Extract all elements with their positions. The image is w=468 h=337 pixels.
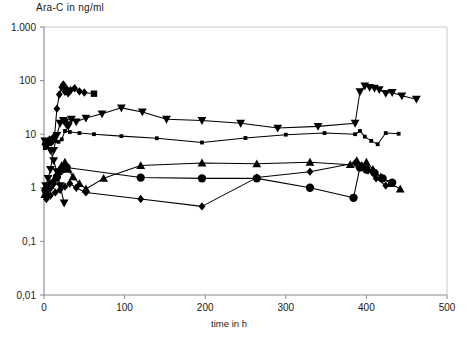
data-point-circle [137, 173, 145, 181]
data-point-square-small [244, 136, 248, 140]
data-point-circle [62, 163, 70, 171]
data-point-triangle-up [396, 185, 405, 193]
data-point-square-small [397, 132, 401, 136]
data-point-square-small [358, 129, 362, 133]
series-line [45, 161, 400, 195]
y-tick-label: 0,1 [22, 236, 36, 247]
data-point-diamond [307, 167, 314, 175]
data-point-square-small [155, 136, 159, 140]
data-point-circle [198, 174, 206, 182]
data-point-diamond [199, 202, 206, 210]
x-tick-label: 500 [439, 302, 456, 313]
data-point-square-small [92, 132, 96, 136]
data-point-circle [388, 178, 396, 186]
data-point-triangle-up [69, 172, 78, 180]
chart-figure: Ara-C in ng/ml 0,010,11101001.0000100200… [0, 0, 468, 337]
y-axis-ticks: 0,010,11101001.000 [11, 22, 44, 301]
data-point-triangle-down [381, 90, 390, 98]
data-point-square-small [384, 131, 388, 135]
x-axis-ticks: 0100200300400500 [41, 295, 456, 313]
y-tick-label: 1 [30, 182, 36, 193]
data-point-circle [370, 169, 378, 177]
data-point-triangle-down [60, 200, 69, 208]
data-point-square-small [323, 131, 327, 135]
data-point-diamond [137, 195, 144, 203]
data-point-square-small [63, 129, 67, 133]
series-patient-4-up-triangle [40, 156, 404, 198]
data-point-triangle-up [306, 158, 315, 166]
data-point-triangle-down [412, 96, 421, 104]
data-point-triangle-down [49, 157, 58, 165]
x-axis-title: time in h [0, 318, 468, 329]
data-point-square-small [68, 130, 72, 134]
series-line [46, 167, 393, 197]
data-point-diamond [81, 88, 88, 96]
data-point-circle [306, 184, 314, 192]
y-tick-label: 10 [25, 129, 37, 140]
series-line [45, 131, 399, 148]
data-point-circle [349, 194, 357, 202]
data-point-circle [48, 179, 56, 187]
plot-area: 0,010,11101001.0000100200300400500 [0, 0, 468, 337]
x-tick-label: 100 [116, 302, 133, 313]
data-point-triangle-up [99, 174, 108, 182]
x-tick-label: 300 [277, 302, 294, 313]
series-patient-6-diamond-low [43, 159, 389, 211]
series-patient-5-circle [41, 163, 396, 202]
data-point-triangle-down [356, 88, 365, 96]
series-patient-3-small-square [43, 129, 401, 150]
data-point-triangle-up [198, 159, 207, 167]
series-line [46, 163, 385, 206]
y-tick-label: 1.000 [11, 22, 36, 33]
y-tick-label: 0,01 [17, 290, 37, 301]
data-point-triangle-down [72, 118, 81, 126]
data-point-square-small [369, 139, 373, 143]
data-point-square-small [60, 137, 64, 141]
x-tick-label: 400 [358, 302, 375, 313]
data-point-diamond [53, 104, 60, 112]
data-point-square-small [353, 132, 357, 136]
data-point-square-small [78, 131, 82, 135]
data-point-square-small [119, 134, 123, 138]
plot-frame [44, 27, 447, 295]
y-tick-label: 100 [19, 75, 36, 86]
data-point-square [91, 90, 97, 96]
data-point-square-small [284, 133, 288, 137]
data-point-triangle-down [82, 115, 91, 123]
data-point-square-small [200, 141, 204, 145]
data-point-square-small [363, 135, 367, 139]
x-tick-label: 200 [197, 302, 214, 313]
data-point-square-small [376, 142, 380, 146]
x-tick-label: 0 [41, 302, 47, 313]
data-point-triangle-down [273, 125, 282, 133]
